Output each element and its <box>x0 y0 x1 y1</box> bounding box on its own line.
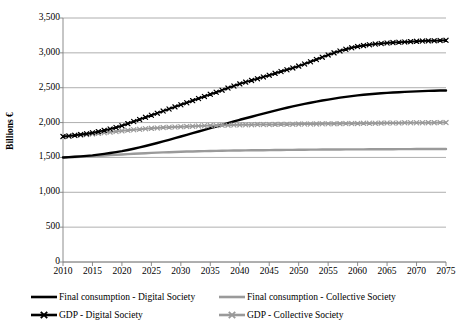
series-gdp-collective-society <box>61 120 448 138</box>
legend-swatch-line-x-marker <box>30 309 58 321</box>
axis-tickmarks <box>59 18 446 266</box>
legend-item[interactable]: Final consumption - Collective Society <box>218 290 396 304</box>
plot-area <box>0 0 459 332</box>
legend-label: Final consumption - Collective Society <box>246 292 396 303</box>
x-tick-label: 2075 <box>426 266 459 277</box>
legend-label: Final consumption - Digital Society <box>58 292 195 303</box>
gridlines <box>63 18 446 262</box>
legend-item[interactable]: Final consumption - Digital Society <box>30 290 195 304</box>
legend-swatch-line-x-marker <box>218 309 246 321</box>
chart-legend: Final consumption - Digital SocietyFinal… <box>0 288 459 332</box>
x-axis-tick-labels: 2010201520202025203020352040204520502055… <box>0 266 459 282</box>
chart-container: Billions € 3,5003,0002,5002,0001,5001,00… <box>0 0 459 332</box>
legend-item[interactable]: GDP - Digital Society <box>30 308 143 322</box>
legend-swatch-line <box>30 291 58 303</box>
axis-lines <box>63 18 446 262</box>
legend-item[interactable]: GDP - Collective Society <box>218 308 343 322</box>
data-series-group <box>61 38 448 157</box>
legend-label: GDP - Collective Society <box>246 310 343 321</box>
legend-swatch-line <box>218 291 246 303</box>
legend-label: GDP - Digital Society <box>58 310 143 321</box>
